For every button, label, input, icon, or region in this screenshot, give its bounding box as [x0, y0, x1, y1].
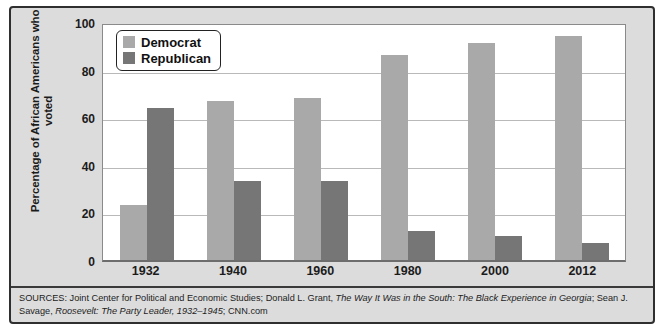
legend-item-democrat: Democrat: [123, 34, 211, 50]
legend-label-republican: Republican: [141, 51, 211, 66]
bar-republican-1940: [234, 181, 261, 260]
bar-republican-1960: [321, 181, 348, 260]
legend-item-republican: Republican: [123, 50, 211, 66]
y-tick-60: 60: [65, 112, 95, 126]
y-tick-20: 20: [65, 207, 95, 221]
bar-republican-2000: [495, 236, 522, 260]
bar-democrat-2012: [555, 36, 582, 260]
y-tick-40: 40: [65, 160, 95, 174]
y-tick-100: 100: [65, 17, 95, 31]
chart-region: Percentage of African Americans who vote…: [11, 8, 653, 282]
bar-group-1960: [294, 25, 348, 260]
y-axis-title: Percentage of African Americans who vote…: [29, 6, 55, 216]
y-tick-80: 80: [65, 65, 95, 79]
bar-democrat-1940: [207, 101, 234, 260]
x-tick-1980: 1980: [364, 264, 451, 284]
sources-title-2: Roosevelt: The Party Leader, 1932–1945: [55, 306, 223, 316]
bar-democrat-1960: [294, 98, 321, 260]
bar-republican-1980: [408, 231, 435, 260]
bar-democrat-1932: [120, 205, 147, 260]
sources-divider: [11, 286, 653, 288]
x-tick-1940: 1940: [189, 264, 276, 284]
bar-group-2012: [555, 25, 609, 260]
sources-title-1: The Way It Was in the South: The Black E…: [336, 293, 592, 303]
chart-figure: Percentage of African Americans who vote…: [9, 6, 655, 324]
chart-legend: DemocratRepublican: [116, 30, 221, 71]
legend-swatch-democrat-icon: [123, 36, 135, 48]
y-tick-0: 0: [65, 255, 95, 269]
legend-label-democrat: Democrat: [141, 35, 201, 50]
bar-democrat-1980: [381, 55, 408, 260]
bar-republican-1932: [147, 108, 174, 260]
bar-democrat-2000: [468, 43, 495, 260]
x-tick-1932: 1932: [102, 264, 189, 284]
legend-swatch-republican-icon: [123, 52, 135, 64]
x-tick-2000: 2000: [451, 264, 538, 284]
bar-group-1980: [381, 25, 435, 260]
sources-note: SOURCES: Joint Center for Political and …: [19, 292, 645, 317]
bar-republican-2012: [582, 243, 609, 260]
bar-group-2000: [468, 25, 522, 260]
x-tick-2012: 2012: [539, 264, 626, 284]
x-tick-1960: 1960: [277, 264, 364, 284]
sources-suffix: ; CNN.com: [223, 306, 268, 316]
x-axis-tick-labels: 193219401960198020002012: [102, 264, 626, 284]
y-axis-tick-labels: 020406080100: [63, 24, 95, 262]
sources-prefix: SOURCES: Joint Center for Political and …: [19, 293, 336, 303]
